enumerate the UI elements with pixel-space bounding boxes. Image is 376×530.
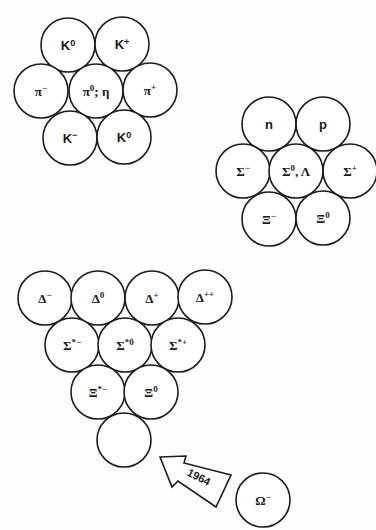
particle-k0-top: K0 <box>41 18 95 72</box>
particle-k-plus: K+ <box>95 17 149 71</box>
particle-sigma-zero-lambda: Σ0, Λ <box>269 144 323 198</box>
particle-sigma-plus: Σ+ <box>323 144 376 198</box>
meson-octet: K0 K+ π− π0; η π+ K− K0 <box>14 17 177 165</box>
particle-label: Σ0, Λ <box>282 163 311 179</box>
particle-xi-star-minus: Ξ*− <box>71 365 125 419</box>
particle-xi-minus: Ξ− <box>242 192 296 246</box>
particle-sigma-star-zero: Σ*0 <box>98 318 152 372</box>
particle-xi-zero: Ξ0 <box>296 191 350 245</box>
particle-pi-zero-eta: π0; η <box>69 64 123 118</box>
eightfold-way-diagram: K0 K+ π− π0; η π+ K− K0 n <box>0 0 376 530</box>
particle-delta-minus: Δ− <box>18 271 72 325</box>
particle-sigma-minus: Σ− <box>216 144 270 198</box>
baryon-octet: n p Σ− Σ0, Λ Σ+ Ξ− Ξ0 <box>216 97 376 246</box>
particle-k-minus: K− <box>43 111 97 165</box>
particle-neutron: n <box>242 97 296 151</box>
particle-label: p <box>319 117 327 132</box>
particle-delta-zero: Δ0 <box>71 271 125 325</box>
prediction-arrow: 1964 <box>160 456 231 507</box>
particle-label: n <box>265 117 273 132</box>
particle-delta-plus-plus: Δ++ <box>178 270 232 324</box>
particle-omega-minus: Ω− <box>236 473 290 527</box>
baryon-decuplet: Δ− Δ0 Δ+ Δ++ Σ*− Σ*0 Σ*+ Ξ*− <box>18 270 232 467</box>
particle-sigma-star-minus: Σ*− <box>45 318 99 372</box>
particle-proton: p <box>296 97 350 151</box>
particle-k0-bottom: K0 <box>97 110 151 164</box>
particle-label: π0; η <box>83 83 110 99</box>
particle-pi-plus: π+ <box>123 63 177 117</box>
particle-xi-star-zero: Ξ0 <box>124 365 178 419</box>
empty-particle-circle <box>97 413 151 467</box>
particle-empty-slot <box>97 413 151 467</box>
particle-sigma-star-plus: Σ*+ <box>151 318 205 372</box>
particle-delta-plus: Δ+ <box>125 271 179 325</box>
particle-pi-minus: π− <box>14 64 68 118</box>
